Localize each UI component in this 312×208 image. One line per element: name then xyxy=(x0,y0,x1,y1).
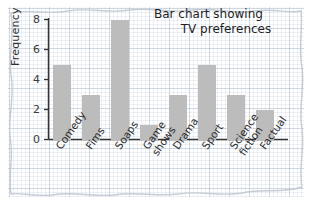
chart-title-line2: TV preferences xyxy=(150,22,302,37)
y-tick-label-2: 2 xyxy=(26,104,40,115)
bar-chart-screenshot: 8 6 4 2 0 Frequency Comedy Fims Soaps Ga… xyxy=(0,0,312,208)
chart-title-line1: Bar chart showing xyxy=(150,7,302,22)
chart-title: Bar chart showing TV preferences xyxy=(150,7,302,38)
y-tick-label-8: 8 xyxy=(26,14,40,25)
y-tick-label-6: 6 xyxy=(26,44,40,55)
bar-soaps xyxy=(111,20,129,140)
y-tick-label-0: 0 xyxy=(26,134,40,145)
y-tick-label-4: 4 xyxy=(26,74,40,85)
y-axis-label: Frequency xyxy=(9,0,22,66)
